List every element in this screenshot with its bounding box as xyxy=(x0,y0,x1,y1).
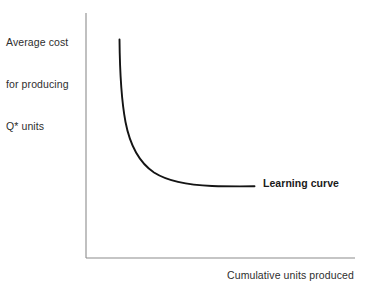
y-axis-label-line-2: for producing xyxy=(6,77,69,91)
learning-curve-path xyxy=(120,40,255,187)
y-axis-label-line-3: Q* units xyxy=(6,119,69,133)
learning-curve-figure: Average cost for producing Q* units Lear… xyxy=(0,0,370,292)
x-axis-label: Cumulative units produced xyxy=(227,268,354,282)
y-axis-label-line-1: Average cost xyxy=(6,35,69,49)
y-axis-label: Average cost for producing Q* units xyxy=(6,7,69,161)
learning-curve-annotation: Learning curve xyxy=(263,177,339,190)
